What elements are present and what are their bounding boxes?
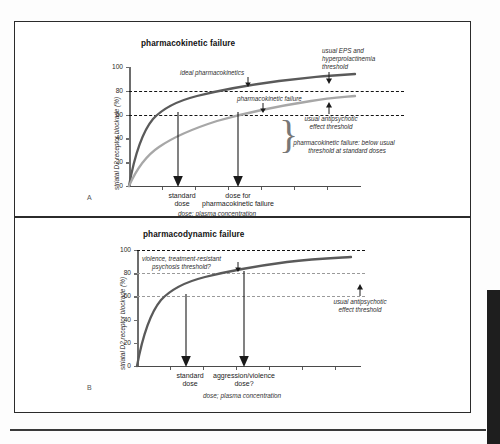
panel-a-eps-line1: usual EPS and — [322, 47, 364, 55]
figure-page: pharmacokinetic failure A striatal D2 re… — [0, 0, 500, 444]
panel-a-xcat-failure-line2: pharmacokinetic failure — [190, 200, 286, 208]
panel-b-effect-line1: usual antipsychotic — [325, 298, 395, 306]
panel-b-y-axis-label: striatal D2 receptor blockade (%) — [119, 277, 126, 370]
panel-a-x-axis-label: dose; plasma concentration — [178, 210, 256, 217]
page-footer-rule — [10, 429, 486, 431]
right-edge-bar[interactable] — [487, 290, 500, 444]
panel-a-effect-arrow — [325, 102, 333, 114]
panel-a-annotation-failure-arrow — [259, 103, 267, 113]
panel-b-effect-line2: effect threshold — [325, 306, 395, 314]
panel-a-ylabel-60: 60 — [107, 111, 123, 118]
panel-a-annotation-ideal: ideal pharmacokinetics — [180, 69, 244, 77]
panel-b-ylabel-40: 40 — [115, 316, 131, 323]
panel-a-title: pharmacokinetic failure — [141, 39, 235, 48]
panel-b-effect-arrow — [356, 284, 364, 296]
panel-b-title: pharmacodynamic failure — [143, 230, 245, 239]
panel-a-ylabel-40: 40 — [107, 134, 123, 141]
panel-a: pharmacokinetic failure A striatal D2 re… — [14, 21, 471, 217]
panel-b-arrow-aggression-dose — [236, 271, 252, 370]
panel-a-eps-arrow — [325, 72, 333, 84]
panel-a-ylabel-100: 100 — [107, 63, 123, 70]
panel-b-ylabel-20: 20 — [115, 339, 131, 346]
panel-b-violence-line2: psychosis threshold? — [152, 263, 211, 271]
panel-b-ylabel-0: 0 — [115, 362, 131, 369]
panel-a-ylabel-0: 0 — [107, 182, 123, 189]
panel-b: pharmacodynamic failure B striatal D2 re… — [14, 217, 471, 413]
panel-b-x-axis-label: dose; plasma concentration — [203, 392, 281, 399]
panel-a-effect-line2: effect threshold — [296, 123, 366, 131]
panel-a-arrow-failure-dose — [230, 112, 246, 190]
panel-b-arrow-standard-dose — [178, 294, 194, 370]
panel-a-effect-line1: usual antipsychotic — [296, 115, 366, 123]
panel-a-arrow-standard-dose — [170, 112, 186, 190]
panel-b-violence-line1: violence, treatment-resistant — [142, 255, 221, 263]
panel-b-ylabel-100: 100 — [115, 246, 131, 253]
panel-b-ylabel-60: 60 — [115, 292, 131, 299]
panel-b-ylabel-80: 80 — [115, 269, 131, 276]
panel-a-brace-line2: threshold at standard doses — [285, 147, 409, 155]
panel-a-ylabel-80: 80 — [107, 87, 123, 94]
panel-b-letter: B — [87, 384, 92, 391]
panel-a-annotation-ideal-arrow — [244, 77, 252, 87]
panel-b-xcat-aggression-line2: dose? — [204, 380, 284, 388]
panel-a-annotation-failure: pharmacokinetic failure — [237, 95, 302, 103]
panel-a-ylabel-20: 20 — [107, 158, 123, 165]
panel-a-eps-line3: threshold — [322, 63, 348, 71]
panel-a-letter: A — [87, 194, 92, 201]
panel-a-brace-line1: pharmacokinetic failure: below usual — [279, 139, 409, 147]
panel-a-eps-line2: hyperprolactinemia — [322, 55, 375, 63]
panel-b-violence-arrow — [234, 262, 242, 272]
